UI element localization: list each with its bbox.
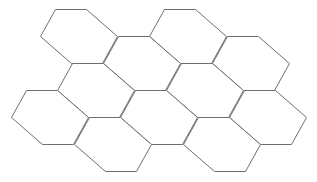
hex-1 <box>41 10 118 64</box>
hexagon-tiling-diagram <box>0 0 317 182</box>
